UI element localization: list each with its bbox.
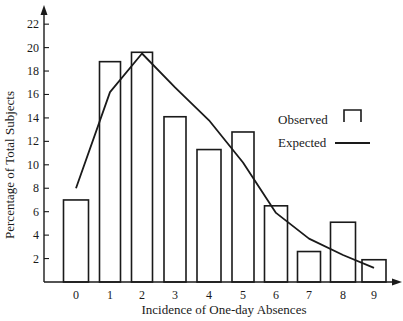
- y-tick-label: 14: [27, 111, 39, 125]
- legend-expected-label: Expected: [278, 135, 327, 150]
- x-tick-label: 1: [107, 288, 113, 302]
- y-tick-label: 6: [33, 205, 39, 219]
- observed-bar-8: [331, 222, 356, 282]
- y-tick-label: 16: [27, 87, 39, 101]
- y-tick-label: 4: [33, 228, 39, 242]
- y-axis-title: Percentage of Total Subjects: [2, 91, 17, 239]
- y-tick-label: 8: [33, 181, 39, 195]
- y-tick-label: 18: [27, 64, 39, 78]
- observed-bar-7: [298, 252, 321, 282]
- y-axis-arrow-icon: [41, 5, 48, 15]
- x-tick-label: 5: [240, 288, 246, 302]
- x-tick-label: 7: [306, 288, 312, 302]
- x-tick-label: 6: [273, 288, 279, 302]
- observed-bars: [64, 52, 387, 282]
- x-tick-label: 9: [371, 288, 377, 302]
- y-tick-label: 22: [27, 17, 39, 31]
- x-tick-label: 3: [172, 288, 178, 302]
- x-axis-arrow-icon: [392, 279, 402, 286]
- x-tick-label: 4: [206, 288, 212, 302]
- chart-canvas: 246810121416182022 0123456789 Percentage…: [0, 0, 403, 321]
- legend-observed-swatch-icon: [344, 110, 361, 122]
- legend: Observed Expected: [278, 110, 370, 150]
- y-tick-label: 2: [33, 252, 39, 266]
- y-tick-label: 10: [27, 158, 39, 172]
- observed-bar-0: [64, 200, 89, 282]
- observed-bar-4: [197, 150, 221, 282]
- observed-bar-5: [232, 132, 254, 282]
- observed-bar-3: [164, 117, 186, 282]
- observed-bar-6: [265, 206, 288, 282]
- y-axis: 246810121416182022: [27, 5, 49, 282]
- y-tick-label: 12: [27, 134, 39, 148]
- x-tick-label: 2: [139, 288, 145, 302]
- x-axis-title: Incidence of One-day Absences: [142, 302, 307, 317]
- y-tick-label: 20: [27, 41, 39, 55]
- observed-bar-9: [362, 260, 386, 282]
- x-tick-label: 0: [73, 288, 79, 302]
- legend-observed-label: Observed: [278, 112, 328, 127]
- observed-bar-2: [132, 52, 153, 282]
- x-tick-label: 8: [340, 288, 346, 302]
